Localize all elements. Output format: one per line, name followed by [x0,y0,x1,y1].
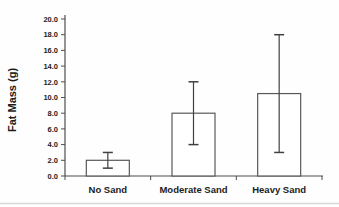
y-tick-label: 0.0 [48,172,58,181]
y-tick-label: 2.0 [48,156,58,165]
y-tick-label: 6.0 [48,125,58,134]
chart-svg: Fat Mass (g) 0.02.04.06.08.010.012.014.0… [0,0,339,207]
y-axis-title: Fat Mass (g) [6,68,18,133]
plot-area: 0.02.04.06.08.010.012.014.016.018.020.0N… [43,15,323,195]
category-label-no-sand: No Sand [89,184,128,195]
fat-mass-bar-chart: Fat Mass (g) 0.02.04.06.08.010.012.014.0… [0,0,339,207]
y-tick-label: 10.0 [43,93,58,102]
y-tick-label: 16.0 [43,46,58,55]
category-label-moderate-sand: Moderate Sand [159,184,227,195]
y-tick-label: 4.0 [48,140,58,149]
y-tick-label: 14.0 [43,62,58,71]
y-tick-label: 20.0 [43,15,58,24]
y-tick-label: 18.0 [43,30,58,39]
category-label-heavy-sand: Heavy Sand [252,184,306,195]
y-tick-label: 12.0 [43,78,58,87]
y-tick-label: 8.0 [48,109,58,118]
